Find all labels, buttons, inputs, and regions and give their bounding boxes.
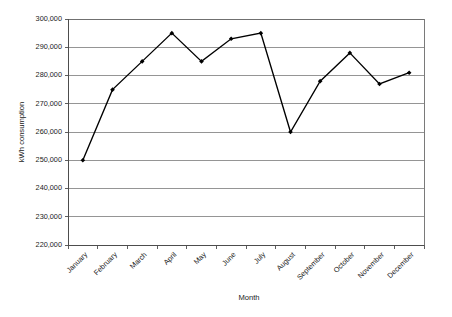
y-tick-label: 220,000	[36, 240, 62, 249]
y-tick-label: 270,000	[36, 99, 62, 108]
line-chart: 220,000230,000240,000250,000260,000270,0…	[0, 0, 452, 317]
chart-canvas: 220,000230,000240,000250,000260,000270,0…	[0, 0, 452, 317]
y-tick-label: 280,000	[36, 70, 62, 79]
y-tick-label: 300,000	[36, 14, 62, 23]
y-axis-title: kWh consumption	[17, 102, 26, 162]
x-axis-title: Month	[238, 293, 259, 302]
y-tick-label: 290,000	[36, 42, 62, 51]
y-tick-labels-group: 220,000230,000240,000250,000260,000270,0…	[36, 14, 62, 249]
y-tick-label: 230,000	[36, 212, 62, 221]
y-tick-label: 240,000	[36, 183, 62, 192]
y-tick-label: 260,000	[36, 127, 62, 136]
y-tick-label: 250,000	[36, 155, 62, 164]
